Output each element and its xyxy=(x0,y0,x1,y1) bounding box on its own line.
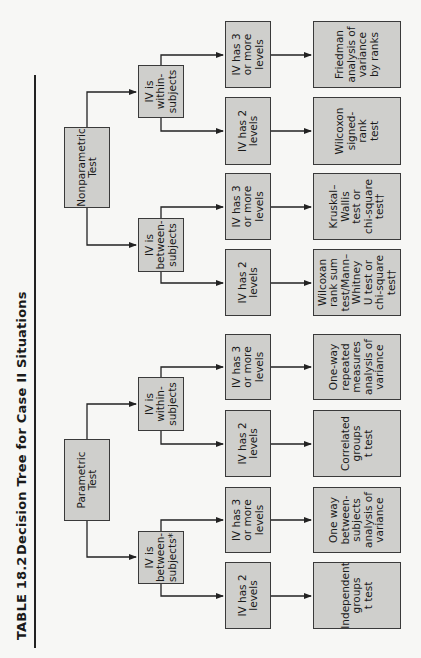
one-way-between-anova-leaf: One way between- subjects analysis of va… xyxy=(313,487,401,553)
nonparametric-within-subjects-node: IV is within- subjects xyxy=(138,65,184,118)
repeated-measures-anova-leaf: One-way repeated measures analysis of va… xyxy=(313,334,401,400)
nonparam-within-3plus-levels-node: IV has 3 or more levels xyxy=(225,21,271,88)
nonparametric-test-node: Nonparametric Test xyxy=(64,127,110,208)
nonparam-between-3plus-levels-node: IV has 3 or more levels xyxy=(225,173,271,240)
nonparam-within-2-levels-node: IV has 2 levels xyxy=(225,97,271,165)
param-within-2-levels-node: IV has 2 levels xyxy=(225,410,271,477)
wilcoxon-signed-rank-leaf: Wilcoxon signed-rank test xyxy=(313,97,401,165)
param-between-3plus-levels-node: IV has 3 or more levels xyxy=(225,487,271,553)
wilcoxon-rank-sum-leaf: Wilcoxan rank sum test/Mann– Whitney U t… xyxy=(313,249,401,316)
parametric-test-node: Parametric Test xyxy=(64,439,110,521)
nonparam-between-2-levels-node: IV has 2 levels xyxy=(225,249,271,316)
parametric-between-subjects-node: IV is between- subjects* xyxy=(138,531,184,584)
friedman-anova-leaf: Friedman analysis of variance by ranks xyxy=(313,21,401,88)
independent-groups-t-test-leaf: Independent groups t test xyxy=(313,562,401,629)
param-between-2-levels-node: IV has 2 levels xyxy=(225,562,271,629)
parametric-within-subjects-node: IV is within- subjects xyxy=(138,377,184,431)
nonparametric-between-subjects-node: IV is between- subjects xyxy=(138,218,184,272)
correlated-groups-t-test-leaf: Correlated groups t test xyxy=(313,410,401,477)
param-within-3plus-levels-node: IV has 3 or more levels xyxy=(225,334,271,400)
kruskal-wallis-leaf: Kruskal– Wallis test or chi-square test† xyxy=(313,173,401,240)
rotated-document-page: TABLE 18.2 Decision Tree for Case II Sit… xyxy=(0,0,421,658)
